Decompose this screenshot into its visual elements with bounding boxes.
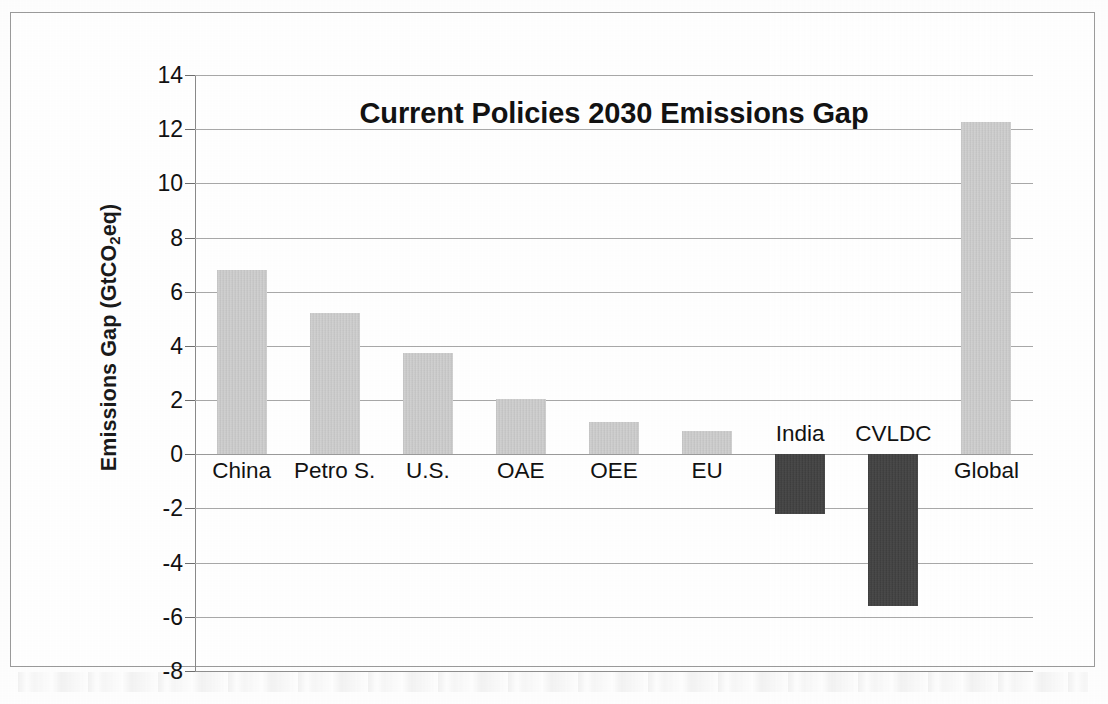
y-tick-mark-8 (185, 238, 195, 239)
gridline-6 (195, 292, 1033, 293)
y-axis-title-suffix: eq) (97, 204, 121, 237)
bar-oae (496, 399, 546, 455)
gridline--8 (195, 671, 1033, 672)
y-tick-mark--2 (185, 508, 195, 509)
gridline-14 (195, 75, 1033, 76)
bar-petro-s (310, 313, 360, 454)
gridline-10 (195, 183, 1033, 184)
y-tick-label--2: -2 (163, 495, 183, 522)
y-tick-mark-6 (185, 292, 195, 293)
category-label-global: Global (920, 458, 1053, 484)
y-tick-label--4: -4 (163, 549, 183, 576)
y-tick-mark-12 (185, 129, 195, 130)
bar-cvldc (868, 454, 918, 606)
figure-root: Emissions Gap (GtCO2eq) Current Policies… (0, 0, 1108, 704)
y-axis-line (195, 75, 196, 671)
figure-border: Emissions Gap (GtCO2eq) Current Policies… (10, 12, 1095, 667)
category-label-eu: EU (641, 458, 774, 484)
gridline--6 (195, 617, 1033, 618)
bar-eu (682, 431, 732, 454)
y-tick-label-4: 4 (170, 332, 183, 359)
gridline-8 (195, 238, 1033, 239)
y-tick-label-12: 12 (157, 116, 183, 143)
y-axis-title-prefix: Emissions Gap (GtCO (97, 245, 121, 472)
gridline-12 (195, 129, 1033, 130)
y-axis-title: Emissions Gap (GtCO2eq) (97, 173, 122, 503)
y-tick-label-6: 6 (170, 278, 183, 305)
bar-oee (589, 422, 639, 455)
y-tick-mark--6 (185, 617, 195, 618)
y-tick-label--8: -8 (163, 658, 183, 685)
y-tick-mark-10 (185, 183, 195, 184)
y-tick-label-8: 8 (170, 224, 183, 251)
y-tick-mark-2 (185, 400, 195, 401)
bar-global (961, 122, 1011, 454)
category-label-cvldc: CVLDC (827, 421, 960, 447)
y-tick-mark-0 (185, 454, 195, 455)
y-tick-label--6: -6 (163, 603, 183, 630)
y-tick-label-2: 2 (170, 387, 183, 414)
bar-china (217, 270, 267, 454)
bar-u-s (403, 353, 453, 455)
chart-title: Current Policies 2030 Emissions Gap (195, 97, 1033, 130)
y-tick-label-10: 10 (157, 170, 183, 197)
y-tick-mark-4 (185, 346, 195, 347)
y-axis-title-subscript: 2 (106, 236, 123, 244)
y-tick-mark--4 (185, 563, 195, 564)
plot-area: Current Policies 2030 Emissions Gap 1412… (195, 75, 1033, 671)
y-tick-mark--8 (185, 671, 195, 672)
bar-india (775, 454, 825, 514)
y-tick-label-14: 14 (157, 62, 183, 89)
y-tick-mark-14 (185, 75, 195, 76)
